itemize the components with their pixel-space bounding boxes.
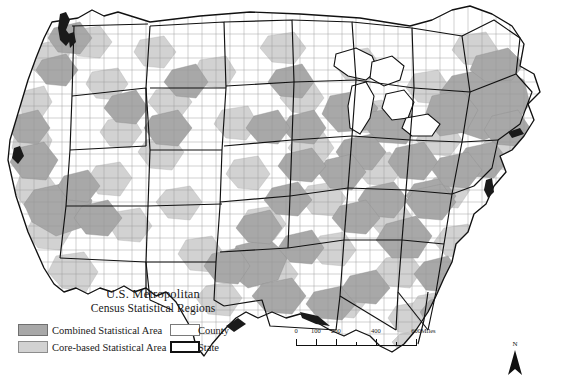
- legend-label-county: County: [198, 325, 288, 336]
- map-title-line1: U.S. Metropolitan: [18, 287, 288, 302]
- scalebar-tick-200: [336, 339, 337, 346]
- scalebar-tick-0: [296, 339, 297, 346]
- map-title: U.S. Metropolitan Census Statistical Reg…: [18, 287, 288, 315]
- scalebar-label-100: 100: [311, 327, 321, 334]
- scalebar-bar: [296, 339, 416, 347]
- map-legend-block: U.S. Metropolitan Census Statistical Reg…: [18, 287, 288, 353]
- scalebar-label-600: 600: [411, 327, 421, 334]
- legend-swatch-county: [170, 324, 200, 336]
- north-arrow-label: N: [503, 341, 527, 348]
- legend-swatch-combined-statistical-area: [18, 324, 48, 336]
- scalebar-unit-label: Miles: [421, 327, 436, 334]
- legend-swatch-state: [170, 341, 200, 353]
- legend-grid: Combined Statistical Area County Core-ba…: [18, 324, 288, 353]
- scalebar-labels: 0 100 200 400 600 Miles: [296, 327, 416, 337]
- legend-label-state: State: [198, 342, 288, 353]
- north-arrow-icon: [507, 350, 523, 376]
- map-scalebar: 0 100 200 400 600 Miles: [296, 327, 416, 347]
- scalebar-label-200: 200: [331, 327, 341, 334]
- scalebar-tick-300: [356, 342, 357, 346]
- scalebar-tick-600: [416, 339, 417, 346]
- scalebar-tick-400: [376, 339, 377, 346]
- map-title-line2: Census Statistical Regions: [18, 302, 288, 316]
- legend-label-combined-statistical-area: Combined Statistical Area: [52, 325, 170, 336]
- north-arrow: N: [503, 341, 527, 376]
- legend-swatch-core-based-statistical-area: [18, 341, 48, 353]
- legend-label-core-based-statistical-area: Core-based Statistical Area: [52, 342, 170, 353]
- scalebar-tick-500: [396, 342, 397, 346]
- map-figure: U.S. Metropolitan Census Statistical Reg…: [0, 0, 570, 384]
- scalebar-tick-100: [316, 339, 317, 346]
- scalebar-label-0: 0: [294, 327, 297, 334]
- scalebar-label-400: 400: [371, 327, 381, 334]
